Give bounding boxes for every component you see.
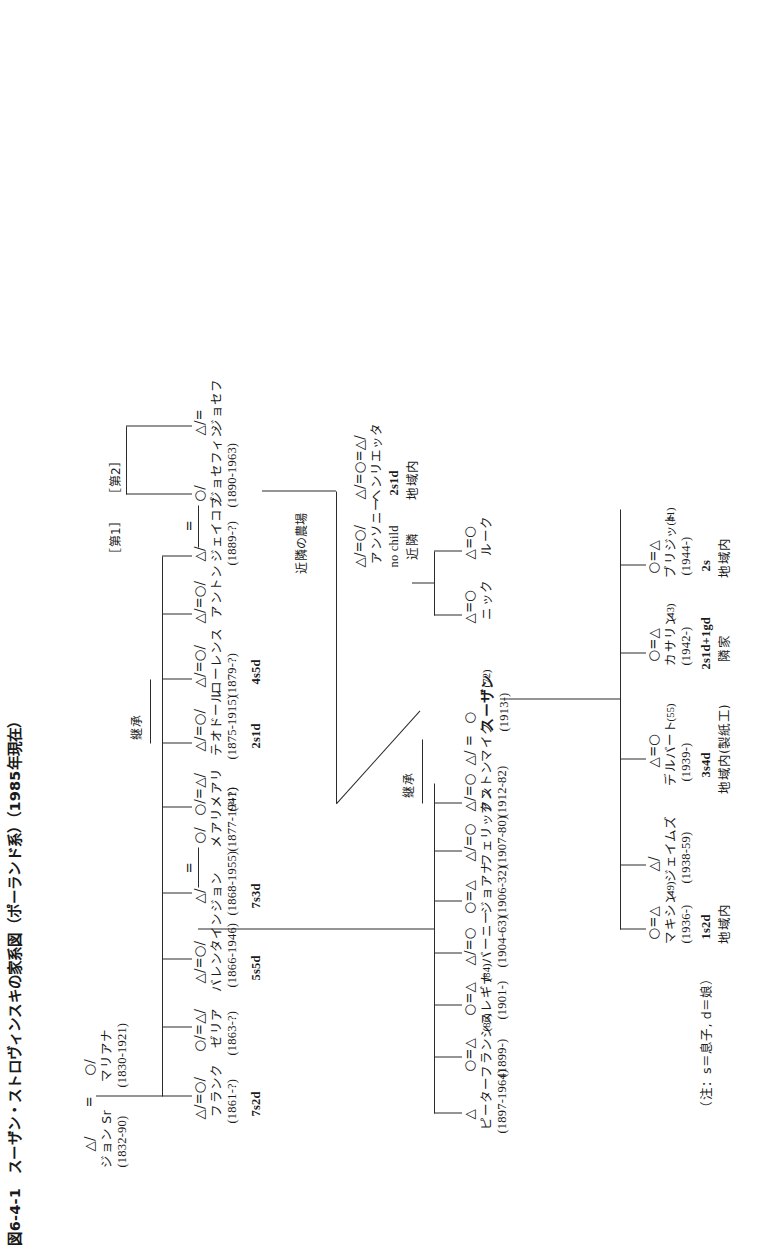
g3-person-2-age: (84)	[481, 963, 492, 981]
g3-person-4-dates: (1906-32)	[496, 865, 510, 917]
g2-drop-7	[162, 613, 192, 614]
g4-person-0-children: 1s2d	[700, 914, 714, 939]
g3r-up	[412, 582, 434, 583]
g2-person-9-name: ジェイコブ	[210, 495, 224, 561]
g2-person-7-symbols: △/=○/	[192, 644, 207, 687]
g3-person-1-symbols: ○=△	[462, 1038, 477, 1071]
rotated-figure-container: 図6-4-1 スーザン・ストロヴィンスキの家系図（ポーランド系）（1985年現在…	[0, 0, 780, 1259]
g3-person-1-dates: (1899-)	[496, 1038, 510, 1077]
g2-drop-4	[162, 806, 192, 807]
g2-union-symbol: =	[182, 862, 197, 873]
figure-title: 図6-4-1 スーザン・ストロヴィンスキの家系図（ポーランド系）（1985年現在…	[8, 713, 24, 1245]
g3r-drop-0	[434, 614, 462, 615]
g2-drop-6	[162, 678, 192, 679]
g2-union-symbol-jacob: =	[182, 520, 197, 531]
g4-person-0-symbols: ○=△	[646, 906, 661, 939]
g4-drop-3	[620, 652, 646, 653]
g2-person-10-symbols: ○/	[192, 485, 207, 501]
g2-drop-8	[162, 555, 192, 556]
g3r-person-2-symbols: △=○	[462, 590, 477, 623]
g3-inherit-bracket	[422, 739, 423, 803]
g1-union-symbol: =	[82, 1096, 97, 1107]
g2-person-5-dates: (?-?)	[226, 786, 240, 811]
g4-person-0-age: (49)	[665, 881, 676, 899]
g2-person-3-name: ジョン	[210, 871, 224, 911]
g4-person-1-symbols: △/	[646, 856, 661, 871]
g4-person-2-name: デルバート	[664, 719, 678, 785]
g1-descent-line	[96, 1095, 162, 1096]
g2-person-10-name: ジョセフィン	[210, 424, 224, 503]
g4-descent-line	[500, 698, 620, 699]
g3-drop-3	[434, 952, 462, 953]
g2-person-1-name: ゼリア	[210, 1007, 224, 1047]
g2-drop-5	[162, 742, 192, 743]
g3-drop-2	[434, 1004, 462, 1005]
g1-person-1-name: マリアナ	[100, 1028, 114, 1081]
g3-person-8-age: (72)	[481, 669, 492, 687]
g4-person-3-age: (43)	[665, 603, 676, 621]
g2-person-2-name: バレンタイン	[210, 912, 224, 991]
g4-person-2-symbols: △=○	[646, 734, 661, 767]
g3-person-5-dates: (1907-80)	[496, 815, 510, 867]
g2-person-6-symbols: △/=○/	[192, 708, 207, 751]
g3r-person-0-symbols: △/=○/	[352, 524, 367, 567]
g2-person-8-symbols: △/=○/	[192, 580, 207, 623]
neighbor-connector-horizontal	[336, 491, 337, 803]
g2-drop-0	[162, 1095, 192, 1096]
g2-person-3-children: 7s3d	[250, 883, 264, 908]
g3r-person-0-name: アンソニー	[370, 497, 384, 563]
g1-person-0-name: ジョン Sr	[100, 1110, 114, 1167]
g4-drop-2	[620, 758, 646, 759]
g4-person-0-residence: 地域内	[718, 903, 732, 943]
g3r-sibling-bar	[434, 551, 435, 615]
g3-drop-6	[434, 802, 462, 803]
g4-person-3-symbols: ○=△	[646, 628, 661, 661]
g4-person-4-children: 2s	[700, 559, 714, 571]
g2-person-2-symbols: △/=○/	[192, 940, 207, 983]
g4-person-2-dates: (1939-)	[680, 742, 694, 781]
g2-person-4-name: メアリ	[210, 807, 224, 847]
g2-person-11-name: ジョセフ	[210, 378, 224, 431]
figure-page: 図6-4-1 スーザン・ストロヴィンスキの家系図（ポーランド系）（1985年現在…	[0, 0, 780, 1259]
g1-person-0-symbols: △/	[82, 1136, 97, 1151]
g4-person-2-children: 3s4d	[700, 752, 714, 777]
g2-union-bar-jacob	[198, 505, 199, 547]
g3r-person-1-name: ヘンリエッタ	[370, 422, 384, 501]
g1-person-1-dates: (1830-1921)	[116, 1022, 130, 1087]
g2-person-7-name: ローレンス	[210, 627, 224, 693]
g2-person-10-dates: (1890-1963)	[226, 442, 240, 507]
g4-person-3-children: 2s1d+1gd	[700, 617, 714, 670]
g2-sibling-bar	[162, 556, 163, 1096]
g3-person-6-symbols: △/=○	[462, 773, 477, 811]
g2-person-4-symbols: ○/	[192, 827, 207, 843]
g2-person-11-symbols: △/=	[192, 409, 207, 435]
g3-person-2-symbols: ○=△	[462, 982, 477, 1015]
g4-person-0-dates: (1936-)	[680, 904, 694, 943]
g4-person-3-residence: 隣家	[718, 635, 732, 661]
g2-person-9-symbols: △/	[192, 546, 207, 561]
g3r-person-1-children: 2s1d	[388, 470, 402, 495]
g4-person-1-dates: (1938-59)	[680, 831, 694, 883]
neighbor-farm-label: 近隣の農場	[296, 512, 309, 573]
g2-person-1-symbols: ○/=△/	[192, 1008, 207, 1051]
g4-person-2-residence: 地域内(製紙工)	[718, 704, 732, 793]
g3-person-3-name: バーニー	[480, 910, 494, 963]
g3-sibling-bar	[434, 783, 435, 1113]
g2-drop-3	[162, 892, 192, 893]
g3-person-4-symbols: ○=△	[462, 880, 477, 913]
g2-person-6-dates: (1875-1915)	[226, 694, 240, 759]
g2-person-0-dates: (1861-?)	[226, 1078, 240, 1123]
g3-person-3-dates: (1904-63)	[496, 915, 510, 967]
g3-drop-1	[434, 1056, 462, 1057]
g4-person-4-dates: (1944-)	[680, 536, 694, 575]
g3r-person-3-symbols: △=○	[462, 526, 477, 559]
g4-person-2-age: (55)	[665, 703, 676, 721]
g2-union-bar-john-mary	[198, 847, 199, 887]
g2-person-7-children: 4s5d	[250, 659, 264, 684]
g3-person-6-dates: (1912-82)	[496, 765, 510, 817]
g2-person-0-children: 7s2d	[250, 1091, 264, 1116]
g2-person-2-dates: (1866-1946)	[226, 922, 240, 987]
g3r-person-1-residence: 地域内	[406, 459, 420, 499]
g4-person-4-symbols: ○=△	[646, 540, 661, 573]
g2-person-9-dates: (1889-?)	[226, 520, 240, 565]
